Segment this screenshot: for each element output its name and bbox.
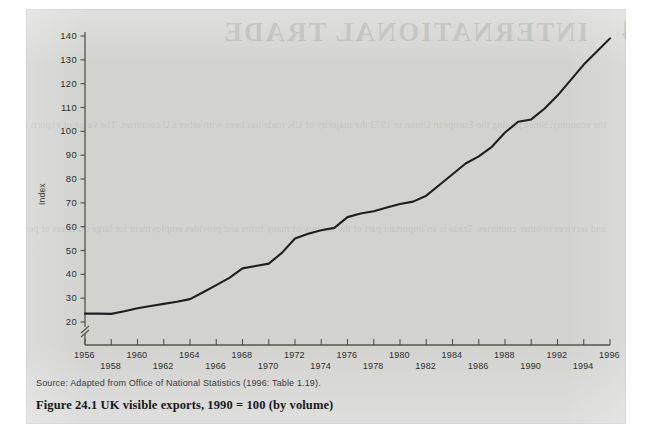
ghost-paragraph-2: and services to other countries. Trade i… <box>176 221 606 236</box>
x-tick-label: 1958 <box>100 361 121 371</box>
x-tick-label: 1970 <box>258 361 279 371</box>
x-tick-label: 1990 <box>520 361 541 371</box>
x-tick-label: 1982 <box>415 361 436 371</box>
x-tick-label: 1994 <box>573 361 594 371</box>
x-tick-label: 1960 <box>127 350 148 360</box>
x-tick-label: 1964 <box>179 350 200 360</box>
ghost-chapter-number: 24 <box>622 15 626 46</box>
x-tick-label: 1986 <box>468 361 489 371</box>
y-tick-label: 100 <box>51 125 77 136</box>
y-axis-title: Index <box>37 183 47 205</box>
y-tick-label: 30 <box>51 292 77 303</box>
x-tick-label: 1980 <box>389 350 410 360</box>
x-tick-label: 1966 <box>205 361 226 371</box>
ghost-running-head: INTERNATIONAL TRADE <box>222 17 588 48</box>
y-tick-label: 80 <box>51 173 77 184</box>
ghost-paragraph-1: the economy. Since joining the European … <box>176 117 606 132</box>
x-tick-label: 1962 <box>153 361 174 371</box>
x-tick-label: 1988 <box>494 350 515 360</box>
x-tick-label: 1974 <box>310 361 331 371</box>
figure-caption: Figure 24.1 UK visible exports, 1990 = 1… <box>36 398 333 413</box>
figure-page: INTERNATIONAL TRADE 24 the economy. Sinc… <box>0 0 653 436</box>
x-tick-label: 1968 <box>232 350 253 360</box>
y-tick-label: 120 <box>51 78 77 89</box>
x-tick-label: 1978 <box>363 361 384 371</box>
x-tick-label: 1996 <box>599 350 620 360</box>
y-tick-label: 90 <box>51 149 77 160</box>
y-tick-label: 140 <box>51 30 77 41</box>
x-tick-label: 1992 <box>547 350 568 360</box>
x-tick-label: 1956 <box>74 350 95 360</box>
x-tick-label: 1984 <box>442 350 463 360</box>
y-tick-label: 20 <box>51 316 77 327</box>
x-tick-label: 1972 <box>284 350 305 360</box>
x-tick-label: 1976 <box>337 350 358 360</box>
y-tick-label: 60 <box>51 221 77 232</box>
y-tick-label: 50 <box>51 245 77 256</box>
y-tick-label: 70 <box>51 197 77 208</box>
y-tick-label: 130 <box>51 54 77 65</box>
y-tick-label: 40 <box>51 268 77 279</box>
y-tick-label: 110 <box>51 102 77 113</box>
figure-source-note: Source: Adapted from Office of National … <box>36 378 321 388</box>
